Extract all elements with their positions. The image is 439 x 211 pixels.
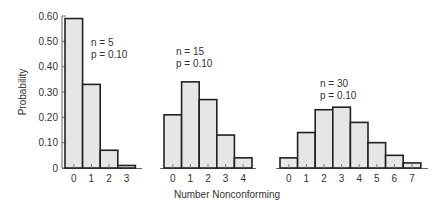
- x-tick-label: 0: [286, 173, 292, 184]
- x-tick-label: 1: [188, 173, 194, 184]
- bar: [333, 107, 351, 168]
- bar: [315, 110, 333, 168]
- x-tick-label: 7: [409, 173, 415, 184]
- panel-annotation: n = 5: [91, 37, 114, 48]
- y-tick-label: 0.20: [39, 112, 59, 123]
- binomial-distributions-chart: 00.100.200.300.400.500.60Probability0123…: [0, 0, 439, 211]
- x-tick-label: 1: [304, 173, 310, 184]
- panel-annotation: p = 0.10: [176, 58, 213, 69]
- x-tick-label: 0: [170, 173, 176, 184]
- panel-annotation: n = 15: [176, 46, 205, 57]
- bar: [164, 115, 182, 168]
- y-tick-label: 0.30: [39, 87, 59, 98]
- x-tick-label: 2: [205, 173, 211, 184]
- y-tick-label: 0.40: [39, 61, 59, 72]
- x-tick-label: 6: [392, 173, 398, 184]
- panel-annotation: p = 0.10: [320, 90, 357, 101]
- x-tick-label: 2: [106, 173, 112, 184]
- x-tick-label: 3: [124, 173, 130, 184]
- bar: [182, 82, 200, 168]
- bar: [65, 19, 83, 168]
- x-tick-label: 3: [223, 173, 229, 184]
- x-tick-label: 1: [89, 173, 95, 184]
- bar: [217, 135, 235, 168]
- panel-annotation: n = 30: [320, 78, 349, 89]
- x-tick-label: 3: [339, 173, 345, 184]
- bar: [350, 122, 368, 168]
- x-axis-label: Number Nonconforming: [174, 189, 280, 200]
- x-tick-label: 0: [71, 173, 77, 184]
- bar: [83, 84, 101, 168]
- x-tick-label: 4: [240, 173, 246, 184]
- bar: [298, 133, 316, 168]
- panel-annotation: p = 0.10: [91, 49, 128, 60]
- bar: [199, 100, 217, 168]
- y-axis-label: Probability: [17, 69, 28, 116]
- x-tick-label: 2: [321, 173, 327, 184]
- y-tick-label: 0: [52, 163, 58, 174]
- y-tick-label: 0.50: [39, 36, 59, 47]
- y-tick-label: 0.10: [39, 137, 59, 148]
- y-tick-label: 0.60: [39, 11, 59, 22]
- x-tick-label: 4: [356, 173, 362, 184]
- x-tick-label: 5: [374, 173, 380, 184]
